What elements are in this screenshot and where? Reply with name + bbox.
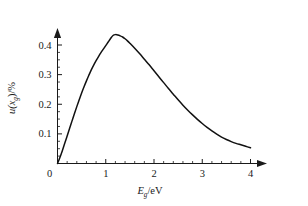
y-tick-label: 0.3 <box>38 69 51 80</box>
x-tick-label: 1 <box>103 168 108 179</box>
x-axis-arrow <box>257 160 267 167</box>
y-tick-label: 0.2 <box>38 99 51 110</box>
axes-group <box>54 28 267 167</box>
ticks-group <box>58 45 251 164</box>
x-tick-label: 0 <box>47 168 52 179</box>
x-tick-label: 3 <box>200 168 205 179</box>
y-tick-label: 0.1 <box>38 128 51 139</box>
y-axis-title: u(xg)/% <box>6 82 20 114</box>
figure-container: 012340.10.20.30.4 Eg/eV u(xg)/% <box>0 0 308 206</box>
data-curve <box>58 35 251 164</box>
x-axis-title: Eg/eV <box>136 185 163 199</box>
x-tick-label: 2 <box>151 168 156 179</box>
x-tick-label: 4 <box>248 168 254 179</box>
y-axis-arrow <box>54 28 61 38</box>
y-tick-label: 0.4 <box>38 40 52 51</box>
line-chart: 012340.10.20.30.4 Eg/eV u(xg)/% <box>0 0 308 206</box>
